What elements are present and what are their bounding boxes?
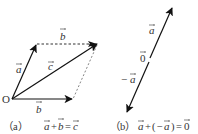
caption-b: （b） a + ( − a ) = 0 — [110, 120, 190, 133]
svg-text:a: a — [44, 120, 50, 132]
vector-neg-a-down-arrow — [127, 62, 149, 112]
svg-text:a: a — [138, 120, 144, 132]
svg-text:=: = — [176, 121, 182, 132]
svg-text:+: + — [51, 121, 57, 132]
vector-b-top-arrowhead — [88, 41, 97, 47]
caption-a: （a） a + b = c — [3, 119, 79, 132]
label-zero-vector: 0 — [140, 52, 146, 64]
svg-text:（a）: （a） — [3, 121, 28, 132]
svg-text:=: = — [65, 121, 71, 132]
dashed-a-right — [73, 45, 97, 99]
svg-text:0: 0 — [140, 52, 146, 64]
svg-text:(: ( — [152, 121, 156, 133]
svg-text:a: a — [164, 120, 170, 132]
figure-a: O a b c b （a） a + b = c — [2, 29, 97, 132]
label-vector-b-top: b — [60, 29, 66, 42]
label-vector-c: c — [48, 60, 54, 72]
svg-text:−: − — [121, 73, 127, 85]
svg-text:b: b — [60, 30, 66, 42]
svg-text:0: 0 — [184, 120, 190, 132]
origin-label: O — [2, 93, 10, 105]
svg-text:a: a — [16, 63, 22, 75]
svg-text:（b）: （b） — [110, 121, 135, 132]
svg-text:a: a — [130, 73, 136, 85]
svg-text:−: − — [157, 121, 163, 132]
vector-addition-diagram: O a b c b （a） a + b = c — [0, 0, 198, 134]
label-vector-a-b: a — [149, 24, 155, 36]
figure-b: a 0 − a （b） a + ( − a ) = 0 — [110, 8, 190, 133]
svg-text:b: b — [36, 103, 42, 115]
svg-text:+: + — [145, 121, 151, 132]
svg-text:): ) — [171, 121, 175, 133]
svg-text:c: c — [73, 120, 78, 132]
svg-text:b: b — [58, 120, 64, 132]
svg-text:a: a — [149, 24, 155, 36]
label-vector-a: a — [16, 63, 22, 75]
label-vector-b-bottom: b — [36, 102, 42, 115]
label-neg-vector-a: − a — [121, 73, 136, 85]
